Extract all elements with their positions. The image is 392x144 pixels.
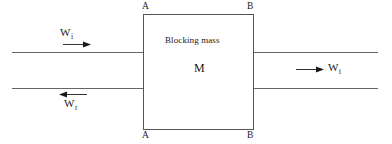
reflected-wave-label: Wr <box>64 98 77 109</box>
blocking-mass-symbol: M <box>194 62 205 74</box>
right-upper-guide-line <box>253 52 378 53</box>
corner-label-top-left: A <box>142 2 149 12</box>
reflected-wave-symbol: W <box>64 97 74 109</box>
transmitted-wave-arrow-right-icon <box>296 65 324 74</box>
reflected-wave-subscript: r <box>75 103 78 112</box>
transmitted-wave-label: Wt <box>328 62 340 73</box>
incident-wave-label: Wi <box>60 27 72 38</box>
left-upper-guide-line <box>12 52 143 53</box>
corner-label-bottom-left: A <box>142 131 149 141</box>
corner-label-top-right: B <box>247 2 254 12</box>
blocking-mass-wave-diagram: A B A B Blocking mass M Wi Wr Wt <box>0 0 392 144</box>
incident-wave-symbol: W <box>60 26 70 38</box>
corner-label-bottom-right: B <box>247 131 254 141</box>
right-lower-guide-line <box>253 88 378 89</box>
blocking-mass-title: Blocking mass <box>165 36 220 45</box>
incident-wave-arrow-right-icon <box>63 40 91 49</box>
transmitted-wave-subscript: t <box>339 67 341 76</box>
transmitted-wave-symbol: W <box>328 61 338 73</box>
